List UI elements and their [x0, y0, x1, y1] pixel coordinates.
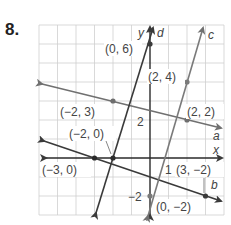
coordinate-plane: (0, 6) (2, 4) (−2, 3) (2, 2) (−2, 0) (−3…	[0, 0, 231, 225]
tick-x-1: 1	[165, 163, 172, 177]
label-m2-0: (−2, 0)	[69, 127, 104, 141]
line-c-label: c	[208, 28, 214, 42]
line-a-label: a	[213, 129, 220, 143]
label-0-m2: (0, −2)	[156, 200, 191, 214]
tick-y-m2: −2	[128, 190, 142, 204]
leader-m2-0	[106, 141, 111, 154]
label-2-4: (2, 4)	[148, 70, 176, 84]
label-2-2: (2, 2)	[187, 105, 215, 119]
point-2-4	[184, 79, 189, 84]
tick-y-2: 2	[137, 115, 144, 129]
point-0-m2	[147, 193, 152, 198]
line-b-label: b	[211, 178, 218, 192]
axis-x-label: x	[212, 143, 220, 157]
label-0-6: (0, 6)	[105, 42, 133, 56]
label-m2-3: (−2, 3)	[60, 105, 95, 119]
line-d-label: d	[157, 26, 164, 40]
point-m2-3	[110, 98, 115, 103]
point-m2-0	[110, 155, 115, 160]
point-m3-0	[92, 155, 97, 160]
label-3-m2: (3, −2)	[176, 163, 211, 177]
label-m3-0: (−3, 0)	[42, 163, 77, 177]
point-labels: (0, 6) (2, 4) (−2, 3) (2, 2) (−2, 0) (−3…	[41, 41, 224, 214]
point-0-6	[147, 41, 152, 46]
axis-y-label: y	[137, 26, 145, 40]
point-3-m2	[203, 193, 208, 198]
